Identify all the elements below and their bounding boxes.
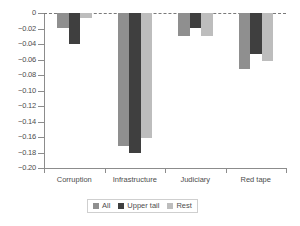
y-axis-tick-label: 0 bbox=[32, 9, 36, 17]
y-axis-tick-label: −0.02 bbox=[18, 25, 36, 33]
bar-judiciary-all bbox=[178, 13, 190, 36]
y-axis-tick bbox=[38, 44, 44, 45]
y-axis-tick bbox=[38, 60, 44, 61]
bar-red-tape-rest bbox=[262, 13, 274, 61]
legend-item-all[interactable]: All bbox=[93, 202, 110, 210]
x-axis-tick bbox=[286, 168, 287, 173]
y-axis-tick bbox=[38, 91, 44, 92]
y-axis-tick bbox=[38, 29, 44, 30]
legend-item-rest[interactable]: Rest bbox=[167, 202, 191, 210]
bar-infrastructure-all bbox=[118, 13, 130, 146]
bar-corruption-all bbox=[57, 13, 69, 28]
y-axis-tick bbox=[38, 153, 44, 154]
legend-swatch-icon bbox=[118, 203, 124, 209]
y-axis-line bbox=[44, 13, 45, 169]
y-axis-tick bbox=[38, 106, 44, 107]
bar-corruption-upper-tail bbox=[69, 13, 81, 44]
legend-label: Rest bbox=[176, 202, 191, 210]
bar-infrastructure-upper-tail bbox=[129, 13, 141, 153]
x-axis-label-judiciary: Judiciary bbox=[165, 175, 226, 184]
legend-item-upper-tail[interactable]: Upper tail bbox=[118, 202, 159, 210]
x-axis-label-red-tape: Red tape bbox=[226, 175, 287, 184]
legend-label: Upper tail bbox=[127, 202, 159, 210]
y-axis-tick-label: −0.08 bbox=[18, 71, 36, 79]
y-axis-tick bbox=[38, 122, 44, 123]
y-axis-tick-label: −0.06 bbox=[18, 56, 36, 64]
y-axis-tick-label: −0.14 bbox=[18, 118, 36, 126]
x-axis-tick bbox=[165, 168, 166, 173]
x-axis-label-infrastructure: Infrastructure bbox=[105, 175, 166, 184]
y-axis-tick-label: −0.16 bbox=[18, 133, 36, 141]
y-axis-tick-label: −0.18 bbox=[18, 149, 36, 157]
chart-legend: AllUpper tailRest bbox=[87, 199, 198, 213]
legend-swatch-icon bbox=[167, 203, 173, 209]
bar-corruption-rest bbox=[80, 13, 92, 18]
x-axis-label-corruption: Corruption bbox=[44, 175, 105, 184]
y-axis-tick-label: −0.04 bbox=[18, 40, 36, 48]
bar-red-tape-upper-tail bbox=[250, 13, 262, 54]
bar-infrastructure-rest bbox=[141, 13, 153, 138]
bar-judiciary-rest bbox=[201, 13, 213, 36]
bar-judiciary-upper-tail bbox=[190, 13, 202, 28]
legend-label: All bbox=[102, 202, 110, 210]
y-axis-tick bbox=[38, 137, 44, 138]
y-axis-tick-label: −0.10 bbox=[18, 87, 36, 95]
x-axis-tick bbox=[44, 168, 45, 173]
legend-swatch-icon bbox=[93, 203, 99, 209]
x-axis-tick bbox=[105, 168, 106, 173]
bar-chart: 0−0.02−0.04−0.06−0.08−0.10−0.12−0.14−0.1… bbox=[0, 0, 300, 226]
y-axis-tick bbox=[38, 13, 44, 14]
x-axis-tick bbox=[226, 168, 227, 173]
y-axis-tick-label: −0.20 bbox=[18, 164, 36, 172]
y-axis-tick-label: −0.12 bbox=[18, 102, 36, 110]
bar-red-tape-all bbox=[239, 13, 251, 69]
y-axis-tick bbox=[38, 75, 44, 76]
